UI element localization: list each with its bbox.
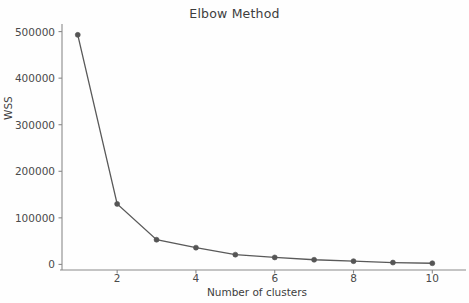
series-line-wss xyxy=(78,35,433,263)
chart-axes-and-series xyxy=(0,0,469,303)
tick-marks xyxy=(59,32,433,274)
x-axis-label: Number of clusters xyxy=(62,286,452,298)
series-markers-wss xyxy=(75,32,435,265)
axis-lines xyxy=(60,24,466,270)
chart-figure: Elbow Method WSS 01000002000003000004000… xyxy=(0,0,469,303)
